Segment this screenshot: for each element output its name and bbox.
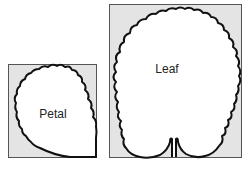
leaf-panel: Leaf: [110, 5, 242, 158]
diagram-canvas: Petal Leaf: [0, 0, 251, 173]
leaf-outline: [114, 8, 241, 158]
leaf-label: Leaf: [155, 62, 179, 76]
petal-label: Petal: [39, 107, 66, 121]
petal-panel: Petal: [9, 65, 97, 158]
